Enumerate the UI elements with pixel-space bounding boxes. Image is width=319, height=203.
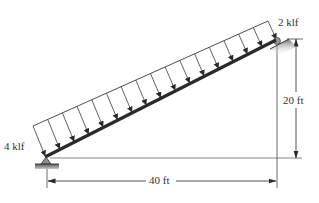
load-arrow [268, 21, 276, 39]
load-arrows [33, 21, 276, 156]
distributed-load [33, 21, 276, 156]
load-arrow [239, 34, 248, 53]
load-arrow [151, 74, 161, 98]
load-arrow [62, 113, 74, 141]
load-arrow [77, 106, 88, 133]
load-arrow [165, 67, 175, 90]
load-arrow [33, 126, 45, 156]
load-arrow [224, 41, 233, 61]
load-arrow [195, 54, 204, 75]
load-arrow [253, 28, 261, 46]
pin-support [35, 157, 59, 169]
load-arrow [48, 119, 60, 148]
horizontal-dimension-label: 40 ft [148, 175, 170, 186]
load-arrow [209, 47, 218, 68]
load-left-label: 4 klf [3, 141, 25, 152]
load-right-label: 2 klf [277, 17, 299, 28]
inclined-beam [45, 40, 276, 157]
load-arrow [136, 80, 146, 104]
beam-diagram [0, 0, 319, 203]
load-arrow [92, 100, 103, 127]
vertical-dimension-label: 20 ft [282, 95, 304, 106]
pin-support-triangle [41, 157, 51, 164]
load-arrow [121, 87, 132, 112]
load-arrow [106, 93, 117, 119]
ground-hatch [35, 164, 59, 169]
load-arrow [180, 60, 190, 82]
